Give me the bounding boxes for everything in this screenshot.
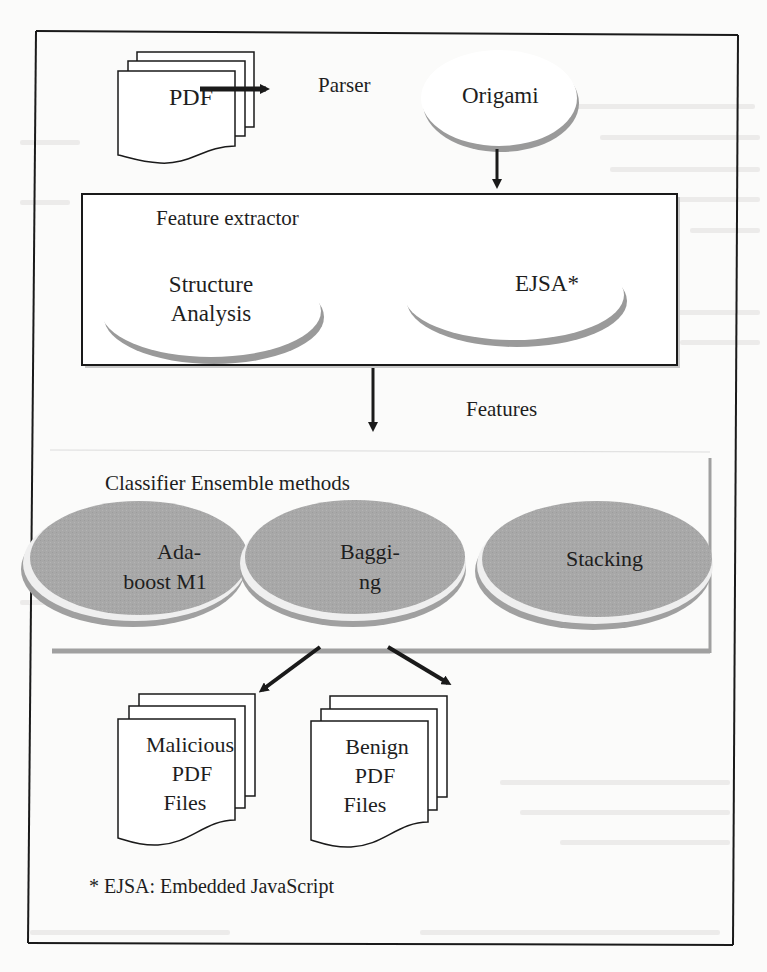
footnote: * EJSA: Embedded JavaScript: [89, 873, 334, 899]
origami-label: Origami: [462, 83, 539, 109]
feature-extractor-title: Feature extractor: [156, 205, 299, 231]
benign-line1: Benign: [320, 732, 420, 761]
structure-analysis-label: Structure Analysis: [141, 270, 281, 328]
adaboost-line2: boost M1: [100, 567, 230, 597]
features-edge-label: Features: [466, 396, 537, 422]
adaboost-line1: Ada-: [100, 537, 230, 567]
bagging-label: Baggi- ng: [320, 537, 420, 597]
input-pdf-label: PDF: [169, 84, 213, 110]
ejsa-label: EJSA*: [515, 271, 579, 297]
parser-edge-label: Parser: [318, 72, 370, 98]
structure-analysis-line1: Structure: [141, 270, 281, 299]
malicious-line2: PDF: [130, 759, 240, 788]
malicious-line3: Files: [130, 788, 240, 817]
adaboost-label: Ada- boost M1: [100, 537, 230, 597]
structure-analysis-line2: Analysis: [141, 299, 281, 328]
bagging-line1: Baggi-: [320, 537, 420, 567]
malicious-files-label: Malicious PDF Files: [130, 730, 240, 817]
ejsa-node: [404, 250, 627, 347]
benign-line3: Files: [320, 790, 420, 819]
stacking-label: Stacking: [566, 546, 643, 572]
bagging-line2: ng: [320, 567, 420, 597]
malicious-line1: Malicious: [130, 730, 240, 759]
benign-files-label: Benign PDF Files: [320, 732, 420, 819]
classifier-title: Classifier Ensemble methods: [105, 470, 350, 496]
benign-line2: PDF: [320, 761, 420, 790]
